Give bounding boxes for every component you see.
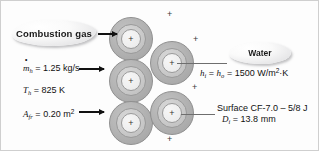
surface-designation-label: Surface CF-7.0 – 5/8 J	[217, 103, 308, 113]
temperature-value: 825	[42, 85, 57, 95]
diameter-unit: mm	[261, 114, 276, 124]
frontal-area-label: Afr = 0.20 m2	[23, 108, 74, 120]
tube-center-plus-icon: +	[128, 118, 133, 127]
h-value: 1500	[235, 68, 255, 78]
flow-plus-icon: +	[192, 83, 197, 92]
water-callout: Water	[229, 42, 291, 64]
leader-line-surface	[181, 114, 215, 115]
convection-coefficient-label: hi = ho = 1500 W/m2·K	[200, 67, 288, 79]
finned-tube: +	[109, 101, 153, 145]
tube-bore: +	[121, 113, 141, 133]
area-unit-exponent: 2	[71, 108, 75, 115]
diameter-subscript: i	[229, 118, 231, 125]
mdot-unit: kg/s	[63, 63, 80, 73]
h-equals-2: =	[227, 68, 232, 78]
flow-plus-icon: +	[193, 35, 198, 44]
h-equals-1: =	[209, 68, 214, 78]
h-unit: W/m	[257, 68, 276, 78]
mdot-equals: =	[35, 63, 40, 73]
inlet-flow-arrow-bottom	[79, 111, 104, 113]
tube-center-plus-icon: +	[169, 58, 174, 67]
temperature-equals: =	[34, 85, 39, 95]
tube-center-plus-icon: +	[128, 76, 133, 85]
area-subscript: fr	[29, 113, 33, 120]
hot-temperature-label: Th = 825 K	[23, 85, 65, 96]
diameter-equals: =	[233, 114, 238, 124]
tube-bore: +	[121, 71, 141, 91]
leader-line-water	[177, 63, 227, 64]
heat-exchanger-figure: + + + + + + + + +	[0, 0, 319, 151]
tube-center-plus-icon: +	[169, 108, 174, 117]
mdot-value: 1.25	[43, 63, 61, 73]
area-equals: =	[35, 109, 40, 119]
inlet-flow-arrow-middle	[79, 68, 104, 70]
h-outer-subscript: o	[221, 72, 224, 79]
flow-plus-icon: +	[167, 10, 172, 19]
inlet-flow-arrow-top	[98, 33, 117, 35]
area-value: 0.20	[43, 109, 61, 119]
temperature-unit: K	[59, 85, 65, 95]
combustion-gas-callout: Combustion gas	[12, 20, 96, 46]
flow-plus-icon: +	[167, 135, 172, 144]
area-unit: m	[63, 109, 71, 119]
combustion-gas-label: Combustion gas	[16, 28, 92, 39]
tube-bore: +	[162, 103, 182, 123]
mass-flow-rate-label: mh = 1.25 kg/s	[23, 63, 80, 74]
mdot-symbol: m	[23, 63, 30, 73]
water-label: Water	[248, 48, 271, 58]
tube-bore: +	[121, 29, 141, 49]
tube-center-plus-icon: +	[128, 34, 133, 43]
temperature-subscript: h	[28, 89, 31, 96]
finned-tube: +	[109, 59, 153, 103]
h-inner-subscript: i	[205, 72, 207, 79]
finned-tube: +	[150, 91, 194, 135]
inner-diameter-label: Di = 13.8 mm	[222, 114, 276, 125]
diameter-value: 13.8	[241, 114, 259, 124]
h-unit-tail: ·K	[279, 68, 288, 78]
finned-tube: +	[109, 17, 153, 61]
